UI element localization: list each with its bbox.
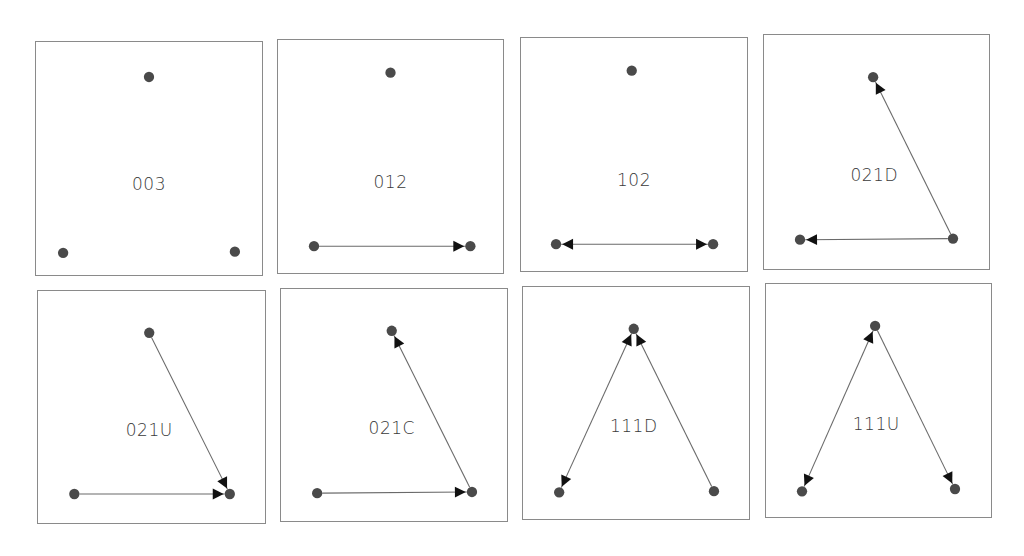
triad-graph (764, 35, 989, 269)
arrowhead-icon (213, 489, 224, 500)
arrowhead-icon (562, 239, 573, 250)
arrowhead-icon (453, 241, 464, 252)
node-top (629, 324, 639, 334)
triad-graph (281, 289, 507, 521)
triad-panel-012: 012 (277, 39, 504, 274)
triad-label: 111D (610, 416, 658, 436)
arrowhead-icon (455, 487, 466, 498)
node-right (230, 247, 240, 257)
edge-top-to-left (561, 333, 631, 487)
triad-graph (38, 291, 265, 523)
edge-top-to-left (804, 331, 873, 487)
triad-panel-021u: 021U (37, 290, 266, 524)
triad-label: 111U (853, 414, 900, 434)
node-top (627, 65, 637, 75)
node-top (144, 72, 154, 82)
node-right (708, 239, 718, 249)
triad-panel-021d: 021D (763, 34, 990, 270)
edge-right-to-top (875, 82, 950, 234)
node-top (868, 72, 878, 82)
edge-top-to-right (152, 337, 228, 489)
node-top (385, 67, 395, 77)
triad-label: 021D (850, 165, 898, 185)
node-right (948, 233, 958, 243)
node-left (551, 239, 561, 249)
edge-right-to-top (394, 335, 470, 487)
edge-left-to-right (322, 492, 467, 493)
node-top (144, 328, 154, 338)
node-top (870, 321, 880, 331)
triad-label: 102 (617, 170, 651, 190)
arrowhead-icon (696, 239, 707, 250)
triad-graph (521, 38, 747, 271)
node-right (950, 484, 960, 494)
triad-label: 012 (374, 172, 408, 192)
triad-label: 003 (132, 174, 166, 194)
triad-graph (36, 42, 262, 275)
node-left (309, 241, 319, 251)
node-right (467, 487, 477, 497)
triad-graph (523, 287, 749, 519)
node-left (58, 248, 68, 258)
node-left (797, 486, 807, 496)
node-left (69, 489, 79, 499)
triad-label: 021C (369, 418, 415, 438)
node-right (225, 489, 235, 499)
triad-label: 021U (126, 420, 173, 440)
node-right (465, 241, 475, 251)
triad-graph (278, 40, 503, 273)
node-left (312, 488, 322, 498)
edge-top-to-right (877, 331, 952, 485)
arrowhead-icon (806, 234, 817, 245)
node-top (387, 326, 397, 336)
node-left (795, 235, 805, 245)
edge-right-to-left (805, 239, 948, 240)
triad-panel-003: 003 (35, 41, 263, 276)
edge-right-to-top (636, 333, 712, 486)
node-right (709, 486, 719, 496)
triad-panel-111u: 111U (765, 283, 992, 518)
triad-panel-021c: 021C (280, 288, 508, 522)
triad-panel-111d: 111D (522, 286, 750, 520)
triad-panel-102: 102 (520, 37, 748, 272)
triad-graph (766, 284, 991, 517)
node-left (554, 487, 564, 497)
